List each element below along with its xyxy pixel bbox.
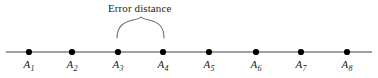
point-label-subscript: 3 [119, 64, 123, 73]
point-label: A5 [204, 58, 215, 73]
error-distance-diagram: Error distance A1A2A3A4A5A6A7A8 [0, 0, 378, 78]
point-label: A2 [67, 58, 78, 73]
point-dot [160, 49, 166, 55]
point-label-subscript: 2 [73, 64, 77, 73]
point-dot [206, 49, 212, 55]
point-label: A6 [251, 58, 262, 73]
point-label-base: A [204, 58, 211, 70]
point-dot [344, 49, 350, 55]
point-label-subscript: 7 [302, 64, 306, 73]
point-label-base: A [67, 58, 74, 70]
point-label-base: A [296, 58, 303, 70]
point-label-subscript: 8 [348, 64, 352, 73]
point-label-subscript: 4 [164, 64, 168, 73]
error-distance-label: Error distance [108, 2, 171, 14]
point-dot [298, 49, 304, 55]
point-label-subscript: 1 [30, 64, 34, 73]
diagram-canvas [0, 0, 378, 78]
point-label-base: A [158, 58, 165, 70]
point-label-base: A [113, 58, 120, 70]
point-label-base: A [342, 58, 349, 70]
point-dot [115, 49, 121, 55]
point-dot [26, 49, 32, 55]
point-dot [69, 49, 75, 55]
point-label-subscript: 6 [257, 64, 261, 73]
point-label: A8 [342, 58, 353, 73]
point-label: A1 [24, 58, 35, 73]
point-label: A3 [113, 58, 124, 73]
point-label-base: A [24, 58, 31, 70]
point-label: A4 [158, 58, 169, 73]
point-label-subscript: 5 [210, 64, 214, 73]
point-label: A7 [296, 58, 307, 73]
error-distance-brace [117, 17, 164, 38]
point-dot [253, 49, 259, 55]
point-label-base: A [251, 58, 258, 70]
